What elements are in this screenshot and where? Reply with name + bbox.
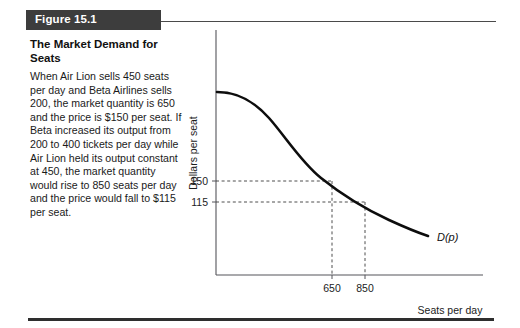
x-tick-label-650: 650 (323, 282, 341, 294)
y-axis-title: Dollars per seat (187, 116, 199, 190)
demand-curve-label: D(p) (437, 231, 459, 243)
figure-number-label: Figure 15.1 (35, 13, 97, 25)
figure-title: The Market Demand for Seats (30, 38, 182, 65)
footer-rule (28, 318, 494, 321)
y-tick-label-115: 115 (191, 196, 208, 208)
x-tick-label-850: 850 (356, 282, 374, 294)
figure-number-bar: Figure 15.1 (26, 10, 161, 30)
chart-svg: 150 115 650 850 Dollars per seat Seats p… (185, 18, 505, 318)
demand-curve-chart: 150 115 650 850 Dollars per seat Seats p… (185, 18, 505, 318)
x-axis-title: Seats per day (418, 304, 484, 316)
figure-body-text: When Air Lion sells 450 seats per day an… (30, 70, 182, 220)
figure-caption-column: The Market Demand for Seats When Air Lio… (30, 38, 182, 220)
demand-curve-path (217, 92, 428, 236)
